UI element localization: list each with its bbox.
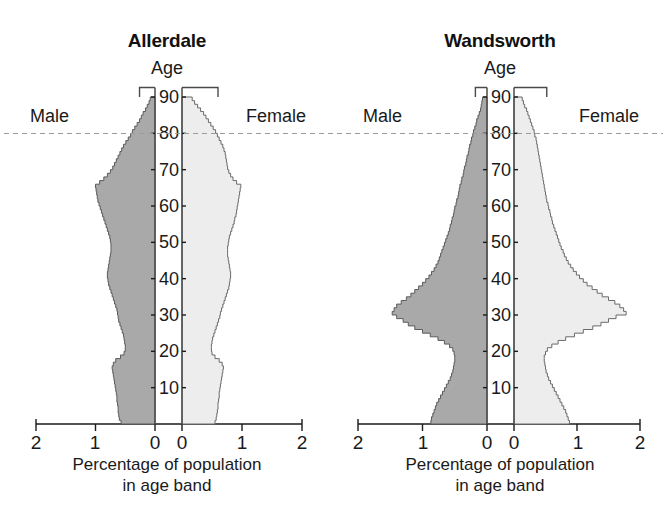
age-tick-80: 80 (491, 123, 511, 144)
female-population-area (514, 97, 626, 424)
age-tick-90: 90 (159, 87, 179, 108)
male-population-area (392, 97, 487, 424)
male-90plus-bar (140, 88, 155, 97)
x-tick-left-2: 2 (31, 432, 42, 454)
age-tick-50: 50 (159, 232, 179, 253)
age-tick-50: 50 (491, 232, 511, 253)
population-pyramid-figure: Allerdale Age Male Female 2 1 0 0 1 2 90… (0, 0, 667, 525)
x-tick-right-1: 1 (573, 432, 584, 454)
age-tick-30: 30 (159, 305, 179, 326)
panel-allerdale: Allerdale Age Male Female 2 1 0 0 1 2 90… (0, 0, 334, 525)
x-tick-left-0: 0 (150, 432, 161, 454)
age-tick-70: 70 (491, 160, 511, 181)
age-tick-90: 90 (491, 87, 511, 108)
age-tick-60: 60 (491, 196, 511, 217)
x-tick-left-2: 2 (353, 432, 364, 454)
x-tick-right-2: 2 (635, 432, 646, 454)
age-tick-40: 40 (159, 269, 179, 290)
age-tick-70: 70 (159, 160, 179, 181)
panel-wandsworth: Wandsworth Age Male Female 2 1 0 0 1 2 9… (333, 0, 667, 525)
age-tick-60: 60 (159, 196, 179, 217)
x-axis-caption-line2: in age band (0, 476, 334, 497)
age-tick-80: 80 (159, 123, 179, 144)
male-population-area (96, 97, 156, 424)
x-axis-caption-line1: Percentage of population (405, 455, 594, 474)
age-tick-10: 10 (491, 378, 511, 399)
age-tick-30: 30 (491, 305, 511, 326)
female-population-area (182, 97, 241, 424)
x-tick-right-2: 2 (297, 432, 308, 454)
female-90plus-bar (182, 88, 218, 97)
x-axis-caption-line2: in age band (333, 476, 667, 497)
x-tick-right-0: 0 (509, 432, 520, 454)
age-tick-20: 20 (159, 341, 179, 362)
x-tick-right-1: 1 (237, 432, 248, 454)
age-tick-20: 20 (491, 341, 511, 362)
x-tick-left-0: 0 (482, 432, 493, 454)
x-tick-left-1: 1 (418, 432, 429, 454)
male-90plus-bar (475, 88, 487, 97)
age-tick-40: 40 (491, 269, 511, 290)
female-90plus-bar (514, 88, 547, 97)
age-tick-10: 10 (159, 378, 179, 399)
x-tick-right-0: 0 (177, 432, 188, 454)
x-axis-caption-allerdale: Percentage of population in age band (0, 455, 334, 496)
x-tick-left-1: 1 (90, 432, 101, 454)
x-axis-caption-line1: Percentage of population (72, 455, 261, 474)
x-axis-caption-wandsworth: Percentage of population in age band (333, 455, 667, 496)
